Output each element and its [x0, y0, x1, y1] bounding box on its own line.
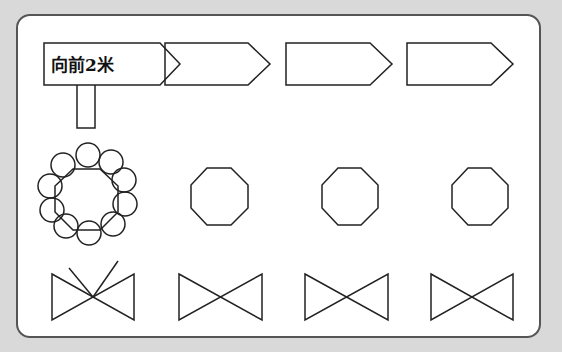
- octagon-4: [452, 168, 508, 225]
- octagon-with-circles: [38, 143, 137, 245]
- pattern-diagram: 向前2米: [0, 0, 562, 352]
- octagon-2: [191, 168, 248, 225]
- arrow-sign-4: [407, 43, 513, 85]
- bowtie-4: [431, 274, 513, 320]
- bowtie-3: [305, 274, 388, 320]
- arrow-sign-3: [286, 43, 392, 85]
- bowtie-with-extra-lines: [52, 261, 134, 320]
- bowtie-2: [179, 274, 262, 320]
- sign-label: 向前2米: [51, 55, 115, 75]
- octagon-3: [322, 168, 378, 225]
